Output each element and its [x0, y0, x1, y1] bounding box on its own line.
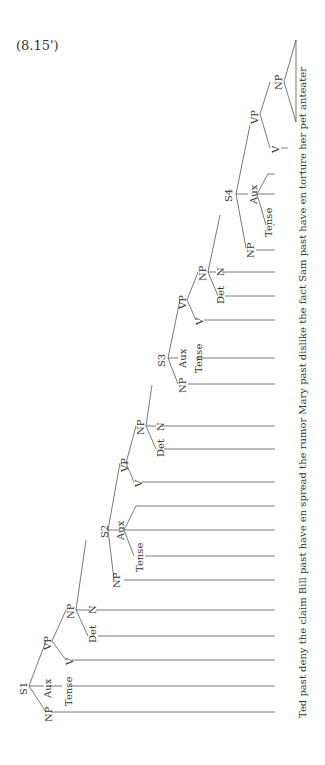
node-tense: Tense — [264, 208, 274, 237]
node-np: NP — [136, 420, 146, 435]
node-tense: Tense — [64, 677, 74, 706]
node-n: N — [216, 267, 226, 276]
node-vp: VP — [43, 636, 53, 650]
node-vp: VP — [120, 458, 130, 472]
node-np: NP — [112, 573, 122, 588]
node-s1: S1 — [19, 682, 29, 695]
node-np: NP — [274, 75, 284, 90]
tree-branches — [0, 0, 325, 765]
node-aux: Aux — [249, 185, 259, 204]
node-det: Det — [88, 625, 98, 643]
node-det: Det — [216, 286, 226, 304]
node-aux: Aux — [116, 521, 126, 540]
node-np: NP — [246, 243, 256, 258]
node-np: NP — [198, 266, 208, 281]
node-aux: Aux — [178, 349, 188, 368]
node-tense: Tense — [135, 543, 145, 572]
node-aux: Aux — [43, 679, 53, 698]
node-s3: S3 — [157, 354, 167, 367]
node-n: N — [156, 422, 166, 431]
node-v: V — [271, 146, 281, 153]
node-v: V — [195, 318, 205, 325]
node-det: Det — [156, 439, 166, 457]
terminal-string: Ted past deny the claim Bill past have e… — [298, 67, 308, 718]
node-np: NP — [178, 378, 188, 393]
node-v: V — [65, 658, 75, 665]
node-vp: VP — [178, 295, 188, 309]
node-v: V — [134, 480, 144, 487]
node-np: NP — [66, 604, 76, 619]
node-vp: VP — [250, 110, 260, 124]
node-np: NP — [44, 707, 54, 722]
node-s4: S4 — [224, 189, 234, 202]
node-tense: Tense — [194, 344, 204, 373]
node-s2: S2 — [100, 525, 110, 538]
node-n: N — [88, 605, 98, 614]
